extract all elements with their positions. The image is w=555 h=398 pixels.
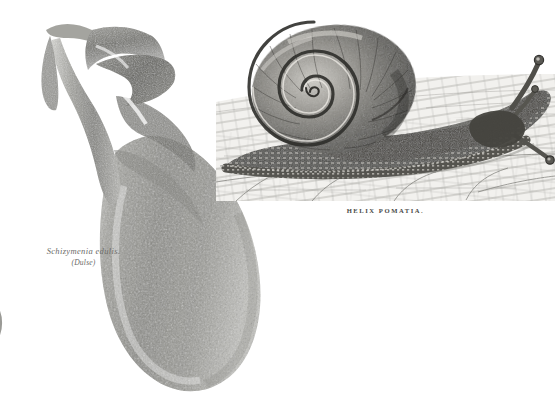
natural-history-plate: Schizymenia edulis. (Dulse) [0, 0, 555, 398]
tentacle-eye-bulb-2 [532, 86, 539, 93]
seaweed-scientific-name: Schizymenia edulis. [26, 246, 141, 257]
seaweed-caption: Schizymenia edulis. (Dulse) [26, 246, 141, 267]
cropped-circular-specimen [0, 300, 16, 346]
snail-figure [216, 16, 555, 201]
snail-caption: HELIX POMATIA. [216, 207, 555, 214]
snail-engraving [216, 16, 555, 201]
seaweed-common-name: (Dulse) [26, 258, 141, 267]
